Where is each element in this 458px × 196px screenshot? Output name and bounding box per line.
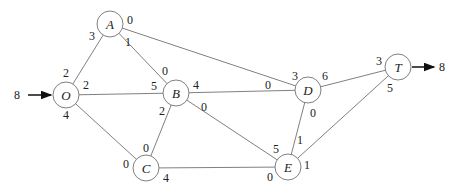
node-label: A xyxy=(105,17,114,32)
node-T: T xyxy=(385,54,411,80)
node-D: D xyxy=(295,77,321,103)
edge-label-B-C-at-C: 0 xyxy=(143,141,149,155)
edge-O-C xyxy=(66,95,146,168)
edge-label-O-C-at-O: 4 xyxy=(63,108,69,122)
edge-label-O-B-at-B: 5 xyxy=(151,79,157,93)
edge-label-A-B-at-B: 0 xyxy=(162,64,168,78)
source-supply-label: 8 xyxy=(14,88,20,102)
node-label: D xyxy=(302,83,313,98)
node-B: B xyxy=(163,80,189,106)
edge-label-C-E-at-E: 0 xyxy=(267,170,273,184)
sink-demand-label: 8 xyxy=(439,60,445,74)
edge-A-B xyxy=(110,24,176,93)
edge-label-O-A-at-O: 2 xyxy=(63,66,69,80)
edge-label-E-T-at-E: 1 xyxy=(304,158,310,172)
node-label: B xyxy=(172,86,180,101)
edge-label-O-A-at-A: 3 xyxy=(89,29,95,43)
edge-label-D-E-at-D: 0 xyxy=(310,106,316,120)
network-flow-diagram: 8 8 O A B C D E T 2 3 2 5 4 0 1 xyxy=(0,0,458,196)
edge-label-A-D-at-D: 3 xyxy=(292,69,298,83)
edge-label-D-E-at-E: 1 xyxy=(297,133,303,147)
edge-label-D-T-at-D: 6 xyxy=(322,69,328,83)
node-label: T xyxy=(394,60,402,75)
edges xyxy=(66,24,398,168)
edge-label-A-D-at-A: 0 xyxy=(127,13,133,27)
edge-label-C-E-at-C: 4 xyxy=(163,171,169,185)
edge-C-E xyxy=(146,167,288,168)
node-O: O xyxy=(53,82,79,108)
edge-label-O-B-at-O: 2 xyxy=(83,78,89,92)
edge-label-B-D-at-D: 0 xyxy=(265,78,271,92)
edge-B-E xyxy=(176,93,288,167)
edge-label-B-E-at-E: 5 xyxy=(273,142,279,156)
edge-label-O-C-at-C: 0 xyxy=(123,157,129,171)
edge-labels: 2 3 2 5 4 0 1 0 0 3 2 0 4 0 0 5 4 0 0 1 … xyxy=(63,13,393,185)
edge-A-D xyxy=(110,24,308,90)
edge-label-B-E-at-B: 0 xyxy=(201,100,207,114)
edge-label-B-D-at-B: 4 xyxy=(193,78,199,92)
node-label: O xyxy=(61,88,71,103)
node-label: E xyxy=(283,160,292,175)
edge-label-B-C-at-B: 2 xyxy=(159,104,165,118)
edge-label-D-T-at-T: 3 xyxy=(376,54,382,68)
edge-label-A-B-at-A: 1 xyxy=(125,35,131,49)
node-C: C xyxy=(133,155,159,181)
edge-O-B xyxy=(66,93,176,95)
node-label: C xyxy=(142,161,151,176)
node-E: E xyxy=(275,154,301,180)
node-A: A xyxy=(97,11,123,37)
edge-label-E-T-at-T: 5 xyxy=(387,81,393,95)
